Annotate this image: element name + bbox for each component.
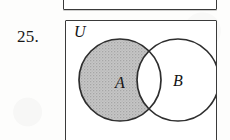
previous-figure-box (63, 0, 217, 10)
shaded-region-a-minus-b (66, 21, 216, 140)
scanned-textbook-page: 25. U (0, 0, 230, 140)
venn-diagram-graphic (66, 21, 216, 140)
venn-diagram-box: U (65, 20, 217, 140)
set-a-label: A (115, 74, 125, 92)
set-b-label: B (173, 72, 183, 90)
exercise-number: 25. (17, 27, 39, 47)
